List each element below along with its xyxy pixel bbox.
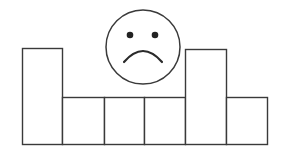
bar-4 [145,98,186,145]
sad-face-icon [106,10,180,84]
bar-6 [227,98,268,145]
bar-3 [105,98,145,145]
right-eye-icon [152,32,159,39]
bar-2 [63,98,105,145]
bar-1 [23,49,63,145]
face-outline [106,10,180,84]
sad-bar-illustration [0,0,281,153]
bar-5 [186,50,227,145]
left-eye-icon [127,32,134,39]
